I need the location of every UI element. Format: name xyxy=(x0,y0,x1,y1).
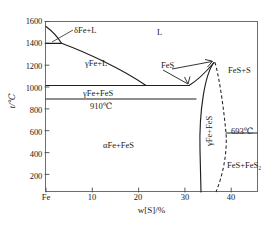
label-gamma-fe-plus-fes: γFe+FeS xyxy=(83,88,113,98)
label-temp-693: 693℃ xyxy=(231,126,253,136)
diagram-curves xyxy=(0,0,271,226)
label-temp-910: 910℃ xyxy=(90,101,112,111)
label-gamma-fe-plus-l: γFe+L xyxy=(85,58,107,68)
label-gamma-fe-plus-fes-vertical: γFe+FeS xyxy=(204,116,214,146)
label-fes-plus-s: FeS+S xyxy=(228,65,251,75)
curve-fes-liquidus-right xyxy=(189,63,214,86)
phase-diagram-figure: 1600 1400 1200 1000 800 600 400 200 t/℃ … xyxy=(0,0,271,226)
curve-fes-solvus-right xyxy=(215,63,226,193)
label-liquid: L xyxy=(157,27,162,37)
label-fes: FeS xyxy=(161,60,174,70)
y-axis-ticks xyxy=(45,22,49,175)
label-fes-plus-fes2: FeS+FeS₂ xyxy=(227,160,261,170)
leader-fes-to-peak xyxy=(172,62,212,70)
leader-delta-fe xyxy=(52,30,73,42)
leader-fes-to-eutectic xyxy=(163,70,188,84)
label-delta-fe-plus-l: δFe+L xyxy=(74,25,97,35)
label-alpha-fe-plus-fes: αFe+FeS xyxy=(103,140,134,150)
x-axis-ticks xyxy=(46,188,231,192)
